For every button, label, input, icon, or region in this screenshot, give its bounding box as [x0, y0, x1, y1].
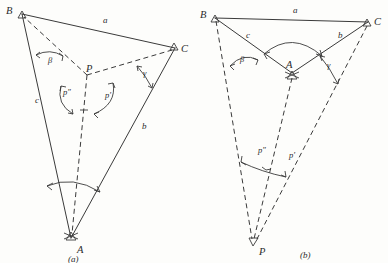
side-c-line-b — [215, 18, 292, 73]
side-label-a-b: a — [293, 5, 298, 15]
vertex-label-b-b: B — [200, 9, 207, 20]
vertex-label-a-b: A — [285, 59, 293, 70]
angle-label-gamma-b: γ — [327, 60, 331, 70]
angle-arrow-beta-left-a — [36, 52, 40, 58]
side-a-line-b — [215, 18, 368, 22]
angle-arc-alpha-a — [47, 182, 100, 192]
panel-b: B C A P a b c β γ p″ p′ (b) — [200, 5, 382, 260]
vertex-label-c-a: C — [181, 43, 189, 54]
angle-arc-alpha-b — [264, 42, 322, 56]
station-marker-p-b — [249, 238, 258, 246]
angle-label-gamma-a: γ — [143, 68, 147, 78]
side-label-a-a: a — [103, 15, 108, 25]
ray-cp-b — [257, 26, 367, 239]
side-label-c-b: c — [246, 30, 250, 40]
side-label-b-b: b — [338, 30, 343, 40]
ray-bp-b — [216, 21, 252, 239]
angle-arc-p-b — [241, 162, 286, 177]
angle-label-beta-b: β — [239, 54, 245, 64]
ray-pa-a — [72, 75, 87, 234]
figure-sheet: B C A P a b c β γ p″ p′ (a) — [0, 0, 388, 263]
point-angle-label-pd-b: p′ — [288, 150, 295, 160]
vertex-label-c-b: C — [374, 16, 382, 27]
vertex-label-b-a: B — [6, 5, 13, 16]
vertex-label-p-b: P — [258, 246, 266, 257]
angle-arrow-mid-b — [262, 167, 271, 170]
ray-ap-b — [254, 78, 292, 239]
point-angle-label-pd-a: p′ — [104, 90, 111, 100]
panel-a: B C A P a b c β γ p″ p′ (a) — [6, 5, 189, 263]
ray-pc-a — [87, 50, 172, 75]
resection-figure-svg: B C A P a b c β γ p″ p′ (a) — [0, 0, 388, 263]
vertex-label-p-a: P — [85, 63, 93, 74]
point-angle-label-pdd-a: p″ — [62, 87, 71, 97]
caption-panel-b: (b) — [300, 250, 311, 260]
angle-label-beta-a: β — [47, 55, 53, 65]
side-a-line-a — [22, 14, 175, 48]
side-label-b-a: b — [142, 121, 147, 131]
point-angle-label-pdd-b: p″ — [257, 145, 266, 155]
caption-panel-a: (a) — [68, 254, 79, 263]
side-c-line-a — [22, 14, 71, 238]
angle-arrow-pd-bot-a — [94, 112, 99, 118]
angle-arrow-beta-right-b — [253, 58, 258, 65]
side-label-c-a: c — [35, 95, 39, 105]
